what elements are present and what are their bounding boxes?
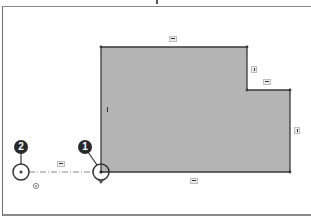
coincident-icon [98, 180, 104, 184]
origin-point[interactable] [19, 170, 22, 173]
origin-icon-dot [35, 185, 37, 187]
relation-horizontal-top[interactable] [169, 36, 177, 42]
relation-horizontal-construction[interactable] [57, 161, 65, 167]
callout-2: 2 [14, 140, 28, 154]
relation-horizontal-step[interactable] [263, 79, 271, 85]
sketch-corner-point[interactable] [99, 170, 102, 173]
callout-1-leader [88, 152, 97, 165]
relation-vertical-left[interactable] [105, 106, 109, 113]
sketch-canvas[interactable]: 2 1 [0, 0, 311, 223]
sketch-geometry [0, 0, 311, 223]
relation-vertical-step[interactable] [251, 66, 257, 73]
relation-horizontal-bottom[interactable] [190, 178, 198, 184]
relation-vertical-right[interactable] [294, 127, 300, 134]
callout-1: 1 [78, 140, 92, 154]
sketch-profile[interactable] [101, 47, 290, 172]
